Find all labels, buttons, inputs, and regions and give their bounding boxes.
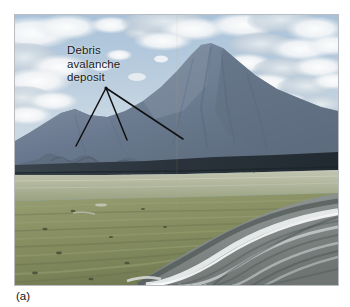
figure-root: Debris avalanche deposit (a) (0, 0, 350, 307)
photograph: Debris avalanche deposit (15, 15, 338, 285)
figure-caption: (a) (16, 289, 30, 303)
photograph-scene (15, 15, 338, 285)
